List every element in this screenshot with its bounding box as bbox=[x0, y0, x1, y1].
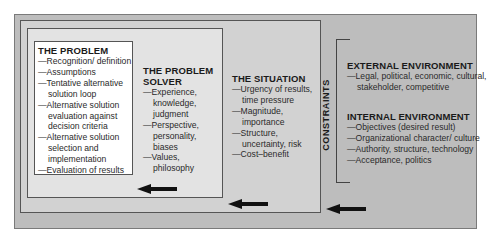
list-item: Alternative solution evaluation against … bbox=[38, 100, 134, 133]
problem-solver-title: THE PROBLEM SOLVER bbox=[143, 65, 221, 87]
problem-solver-section: THE PROBLEM SOLVER Experience, knowledge… bbox=[143, 65, 221, 174]
list-item: Legal, political, economic, cultural, st… bbox=[347, 71, 487, 93]
constraints-label: CONSTRAINTS bbox=[321, 75, 331, 155]
list-item: Organizational character/ culture bbox=[347, 133, 487, 144]
list-item: Experience, knowledge, judgment bbox=[143, 87, 221, 120]
list-item: Magnitude, importance bbox=[232, 106, 320, 128]
list-item: Values, philosophy bbox=[143, 152, 221, 174]
list-item: Evaluation of results bbox=[38, 165, 134, 176]
situation-section: THE SITUATION Urgency of results, time p… bbox=[232, 73, 320, 160]
internal-environment-list: Objectives (desired result) Organization… bbox=[347, 122, 487, 166]
internal-environment-section: INTERNAL ENVIRONMENT Objectives (desired… bbox=[347, 111, 487, 166]
problem-section: THE PROBLEM Recognition/ definition Assu… bbox=[38, 45, 134, 176]
external-environment-section: EXTERNAL ENVIRONMENT Legal, political, e… bbox=[347, 60, 487, 93]
list-item: Urgency of results, time pressure bbox=[232, 84, 320, 106]
list-item: Recognition/ definition bbox=[38, 56, 134, 67]
problem-list: Recognition/ definition Assumptions Tent… bbox=[38, 56, 134, 176]
list-item: Alternative solution selection and imple… bbox=[38, 132, 134, 165]
list-item: Tentative alternative solution loop bbox=[38, 78, 134, 100]
list-item: Objectives (desired result) bbox=[347, 122, 487, 133]
list-item: Assumptions bbox=[38, 67, 134, 78]
problem-solver-list: Experience, knowledge, judgment Perspect… bbox=[143, 87, 221, 174]
external-environment-list: Legal, political, economic, cultural, st… bbox=[347, 71, 487, 93]
situation-list: Urgency of results, time pressure Magnit… bbox=[232, 84, 320, 160]
list-item: Authority, structure, technology bbox=[347, 144, 487, 155]
left-arrow-icon bbox=[326, 204, 366, 214]
left-arrow-icon bbox=[137, 184, 177, 194]
situation-title: THE SITUATION bbox=[232, 73, 320, 84]
external-environment-title: EXTERNAL ENVIRONMENT bbox=[347, 60, 487, 71]
problem-title: THE PROBLEM bbox=[38, 45, 134, 56]
internal-environment-title: INTERNAL ENVIRONMENT bbox=[347, 111, 487, 122]
left-arrow-icon bbox=[228, 199, 268, 209]
list-item: Perspective, personality, biases bbox=[143, 120, 221, 153]
list-item: Acceptance, politics bbox=[347, 155, 487, 166]
list-item: Structure, uncertainty, risk bbox=[232, 128, 320, 150]
list-item: Cost–benefit bbox=[232, 149, 320, 160]
